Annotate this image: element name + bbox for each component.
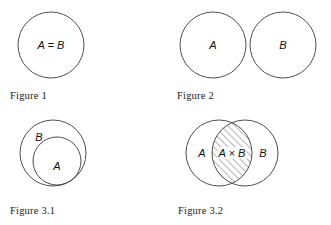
set-b-label: B [35,131,42,143]
set-b-label: B [259,147,266,159]
figure-2-panel: A B Figure 2 [165,0,331,113]
figure-3-2-panel: A A × B B Figure 3.2 [165,113,331,225]
set-a-label: A [53,160,60,172]
set-a-label: A [209,39,216,51]
intersection-label: A × B [218,147,247,159]
set-a-label: A [198,147,205,159]
figure-3-1-caption: Figure 3.1 [10,205,55,216]
a-equals-b-label: A = B [38,39,65,51]
figure-3-2-caption: Figure 3.2 [178,205,223,216]
set-b-label: B [279,39,286,51]
figure-1-panel: A = B Figure 1 [0,0,165,113]
figure-1-caption: Figure 1 [10,90,47,101]
figure-3-1-panel: B A Figure 3.1 [0,113,165,225]
figure-2-caption: Figure 2 [177,90,214,101]
